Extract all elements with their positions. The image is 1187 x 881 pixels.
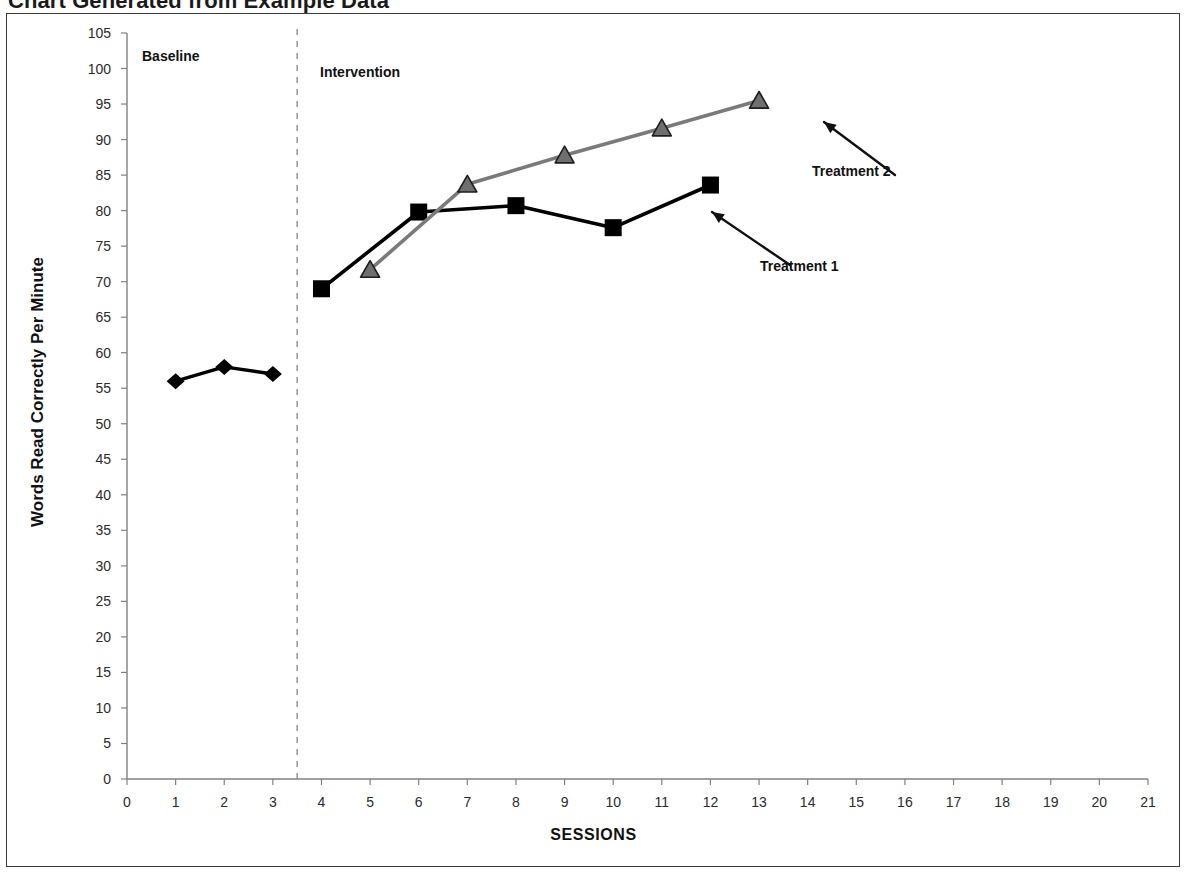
series-line-treatment-2	[370, 101, 759, 270]
data-point-treatment-1	[507, 197, 524, 214]
data-point-baseline	[167, 373, 185, 389]
chart-plot-area	[0, 0, 1187, 881]
data-point-treatment-2	[750, 91, 769, 108]
data-point-baseline	[215, 359, 233, 375]
data-point-treatment-1	[313, 280, 330, 297]
data-point-treatment-1	[410, 204, 427, 221]
annotation-arrow-treatment-1-head	[712, 212, 725, 223]
data-point-baseline	[264, 366, 282, 382]
data-point-treatment-1	[605, 219, 622, 236]
annotation-arrow-treatment-2-head	[824, 122, 837, 133]
annotation-arrow-treatment-2	[824, 122, 895, 175]
annotation-arrow-treatment-1	[712, 212, 790, 265]
data-point-treatment-1	[702, 177, 719, 194]
